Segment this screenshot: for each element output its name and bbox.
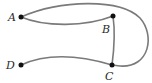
node-b [111,14,116,19]
label-d: D [5,59,15,72]
edge-a-b [21,16,113,24]
node-d [19,63,24,68]
graph-diagram: A B C D [0,0,152,83]
label-b: B [101,23,110,36]
node-a [19,15,24,20]
edge-d-c [21,57,112,65]
edge-b-c [112,16,114,65]
node-c [110,63,115,68]
edge-a-c-outer [21,4,148,66]
label-a: A [7,11,16,24]
label-c: C [105,70,114,83]
